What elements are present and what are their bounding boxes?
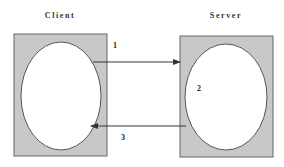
step-2-label: 2 <box>197 84 201 93</box>
step-1-label: 1 <box>113 41 117 50</box>
client-server-diagram: Client Server 1 2 3 <box>0 0 284 167</box>
server-process-ellipse <box>185 44 267 150</box>
step-3-label: 3 <box>121 133 125 142</box>
server-node: Server <box>180 11 273 157</box>
client-label: Client <box>45 11 76 20</box>
server-label: Server <box>210 11 242 20</box>
client-process-ellipse <box>21 42 101 150</box>
client-node: Client <box>14 11 107 156</box>
